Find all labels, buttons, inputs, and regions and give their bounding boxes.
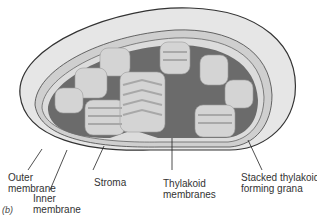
thylakoid-label-line1: Thylakoid <box>163 178 216 189</box>
inner-membrane-label-line1: Inner <box>33 193 81 204</box>
inner-membrane-label-line2: membrane <box>33 204 81 215</box>
panel-label: (b) <box>2 205 13 216</box>
outer-membrane-label: Outer membrane <box>8 172 56 194</box>
inner-membrane-label: Inner membrane <box>33 193 81 215</box>
grana-label: Stacked thylakoids forming grana <box>241 172 317 194</box>
grana-label-line1: Stacked thylakoids <box>241 172 317 183</box>
grana-label-line2: forming grana <box>241 183 317 194</box>
thylakoid-label-line2: membranes <box>163 189 216 200</box>
outer-membrane-label-line1: Outer <box>8 172 56 183</box>
stroma-label: Stroma <box>94 177 126 188</box>
thylakoid-membranes-label: Thylakoid membranes <box>163 178 216 200</box>
